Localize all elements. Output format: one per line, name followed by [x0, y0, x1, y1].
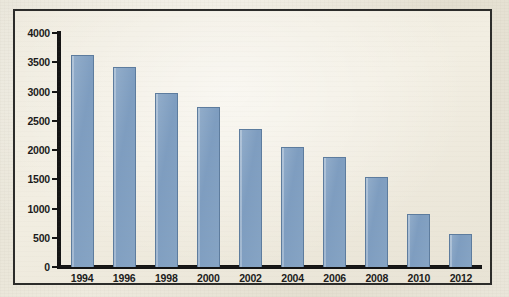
bar-2006	[323, 157, 346, 267]
y-axis-tick-label: 500	[15, 232, 50, 244]
scanned-page: 05001000150020002500300035004000 1994199…	[0, 0, 509, 297]
bar-2004	[281, 147, 304, 267]
y-axis-tick	[52, 61, 57, 63]
x-axis-tick-label: 2012	[450, 272, 473, 284]
y-axis-tick-label: 4000	[15, 27, 50, 39]
y-axis-tick-label: 0	[15, 261, 50, 273]
y-axis-tick-label: 2000	[15, 144, 50, 156]
bar-1994	[71, 55, 94, 267]
bar-2012	[449, 234, 472, 267]
y-axis-tick-label: 2500	[15, 115, 50, 127]
bar-2002	[239, 129, 262, 267]
bar-1998	[155, 93, 178, 267]
y-axis-tick-label: 3000	[15, 86, 50, 98]
x-axis-tick-label: 2008	[365, 272, 388, 284]
chart-frame: 05001000150020002500300035004000 1994199…	[13, 9, 492, 285]
plot-area: 05001000150020002500300035004000 1994199…	[15, 11, 494, 287]
x-axis-tick-label: 2010	[408, 272, 431, 284]
y-axis-tick-label: 1500	[15, 173, 50, 185]
x-axis-tick-label: 1998	[155, 272, 178, 284]
y-axis-tick-label: 1000	[15, 203, 50, 215]
y-axis-tick	[52, 91, 57, 93]
x-axis-tick-label: 2006	[323, 272, 346, 284]
bar-2000	[197, 107, 220, 267]
x-axis-tick-label: 2004	[281, 272, 304, 284]
x-axis-tick-label: 2000	[197, 272, 220, 284]
y-axis-tick	[52, 178, 57, 180]
y-axis-tick	[52, 237, 57, 239]
y-axis-tick	[52, 32, 57, 34]
y-axis-tick	[52, 120, 57, 122]
y-axis-tick	[52, 149, 57, 151]
x-axis-tick-label: 1996	[113, 272, 136, 284]
bar-1996	[113, 67, 136, 267]
y-axis-tick	[52, 208, 57, 210]
x-axis-tick-label: 1994	[71, 272, 94, 284]
x-axis-tick-label: 2002	[239, 272, 262, 284]
y-axis-line	[57, 31, 61, 269]
bar-2010	[407, 214, 430, 267]
y-axis-tick	[52, 266, 57, 268]
y-axis-tick-label: 3500	[15, 56, 50, 68]
bar-2008	[365, 177, 388, 267]
